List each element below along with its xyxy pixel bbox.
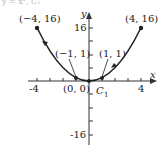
label-neg1-1: (−1, 1) (55, 48, 90, 59)
parabola-diagram: y = x², C₁ x -4 4 y 16 -16 (0, 0, 165, 147)
x-tick-4: 4 (138, 83, 144, 94)
label-1-1: (1, 1) (99, 48, 126, 59)
label-neg4-16: (−4, 16) (19, 13, 61, 24)
label-4-16: (4, 16) (125, 13, 158, 24)
label-origin: (0, 0) (63, 83, 90, 94)
point-neg4-16 (35, 26, 39, 30)
y-tick-neg16: -16 (70, 129, 86, 140)
curve-label-subscript: 1 (104, 91, 108, 99)
point-4-16 (139, 26, 143, 30)
curve-label: C (96, 85, 104, 96)
y-tick-16: 16 (74, 22, 87, 33)
x-axis: x -4 4 (28, 69, 157, 94)
x-axis-label: x (150, 69, 156, 80)
x-tick-neg4: -4 (29, 83, 39, 94)
y-axis-arrow-icon (86, 12, 92, 19)
title-fragment: y = x², C₁ (1, 0, 40, 6)
y-axis-label: y (80, 8, 87, 19)
